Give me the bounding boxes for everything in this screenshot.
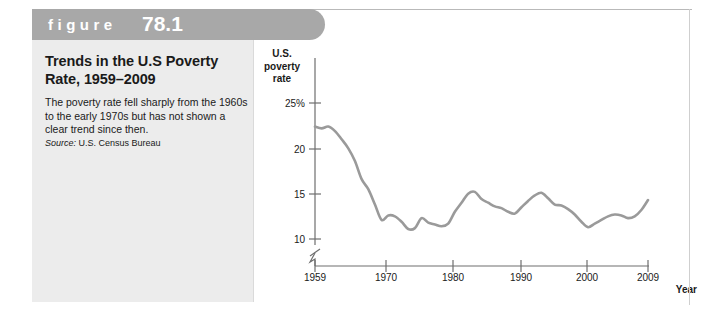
source-value: U.S. Census Bureau <box>76 138 161 148</box>
figure-header-number: 78.1 <box>142 13 183 35</box>
figure-title: Trends in the U.S Poverty Rate, 1959–200… <box>45 52 245 88</box>
figure-source: Source: U.S. Census Bureau <box>45 138 248 149</box>
y-axis-break-icon <box>310 249 320 256</box>
chart-plot-area: U.S. poverty rate 25% 20 15 10 1959 1970… <box>253 40 702 309</box>
caption-panel: Trends in the U.S Poverty Rate, 1959–200… <box>32 40 254 302</box>
source-label: Source: <box>45 138 76 148</box>
page-right-edge <box>689 9 690 305</box>
figure-header-label: figure <box>48 17 117 32</box>
figure-header-bar: figure 78.1 <box>32 9 325 40</box>
figure-container: figure 78.1 Trends in the U.S Poverty Ra… <box>0 0 702 309</box>
poverty-rate-line <box>315 127 648 230</box>
chart-svg <box>253 40 702 309</box>
figure-description: The poverty rate fell sharply from the 1… <box>45 96 248 137</box>
